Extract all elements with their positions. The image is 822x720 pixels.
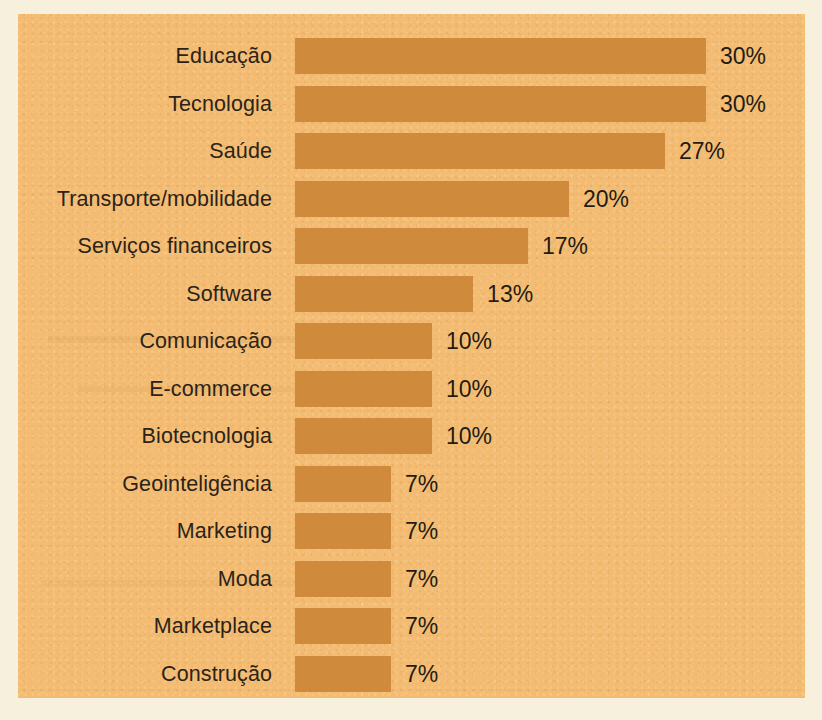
bar-category-label: Tecnologia <box>18 86 272 122</box>
bar-row: Marketing7% <box>18 513 805 549</box>
bar-container: 30% <box>295 38 766 74</box>
bar-category-label: Software <box>18 276 272 312</box>
bar-container: 20% <box>295 181 629 217</box>
bar-container: 27% <box>295 133 725 169</box>
bar-row: Geointeligência7% <box>18 466 805 502</box>
bar-value-label: 7% <box>405 466 438 502</box>
bar-category-label: Comunicação <box>18 323 272 359</box>
bar-value-label: 10% <box>446 418 492 454</box>
bar-container: 7% <box>295 513 438 549</box>
bar-row: Serviços financeiros17% <box>18 228 805 264</box>
bar-container: 10% <box>295 371 492 407</box>
bar <box>295 418 432 454</box>
chart-panel: Educação30%Tecnologia30%Saúde27%Transpor… <box>18 14 805 698</box>
bar-value-label: 10% <box>446 323 492 359</box>
bar-row: Moda7% <box>18 561 805 597</box>
bar-row: Software13% <box>18 276 805 312</box>
bar <box>295 466 391 502</box>
bar-value-label: 10% <box>446 371 492 407</box>
bar-category-label: Saúde <box>18 133 272 169</box>
bar-container: 7% <box>295 561 438 597</box>
bar-value-label: 7% <box>405 656 438 692</box>
chart-page: Educação30%Tecnologia30%Saúde27%Transpor… <box>0 0 822 720</box>
bar-row: Transporte/mobilidade20% <box>18 181 805 217</box>
bar-value-label: 30% <box>720 38 766 74</box>
bar-category-label: Geointeligência <box>18 466 272 502</box>
bar <box>295 86 706 122</box>
bar-value-label: 20% <box>583 181 629 217</box>
bar-category-label: Marketing <box>18 513 272 549</box>
bar-row: Comunicação10% <box>18 323 805 359</box>
bar-value-label: 13% <box>487 276 533 312</box>
bar <box>295 133 665 169</box>
bar-row: Tecnologia30% <box>18 86 805 122</box>
bar-row: Educação30% <box>18 38 805 74</box>
bar-value-label: 27% <box>679 133 725 169</box>
bar-container: 7% <box>295 466 438 502</box>
bar <box>295 228 528 264</box>
bar <box>295 323 432 359</box>
bar <box>295 608 391 644</box>
bar-container: 17% <box>295 228 588 264</box>
bar-row: Biotecnologia10% <box>18 418 805 454</box>
bar-container: 10% <box>295 418 492 454</box>
bar-container: 13% <box>295 276 533 312</box>
bar-category-label: Biotecnologia <box>18 418 272 454</box>
bar-category-label: Marketplace <box>18 608 272 644</box>
bar <box>295 513 391 549</box>
bar-row: Marketplace7% <box>18 608 805 644</box>
bar-row: E-commerce10% <box>18 371 805 407</box>
bar <box>295 181 569 217</box>
bar-row: Saúde27% <box>18 133 805 169</box>
bar-category-label: Educação <box>18 38 272 74</box>
bar-category-label: Serviços financeiros <box>18 228 272 264</box>
bar <box>295 371 432 407</box>
bar-value-label: 7% <box>405 561 438 597</box>
bar <box>295 276 473 312</box>
bar-container: 10% <box>295 323 492 359</box>
bar-value-label: 30% <box>720 86 766 122</box>
bar-category-label: Moda <box>18 561 272 597</box>
bar <box>295 38 706 74</box>
bar-container: 30% <box>295 86 766 122</box>
bar-container: 7% <box>295 656 438 692</box>
bar-value-label: 7% <box>405 513 438 549</box>
bar-container: 7% <box>295 608 438 644</box>
bar-row: Construção7% <box>18 656 805 692</box>
bar-category-label: E-commerce <box>18 371 272 407</box>
bar-category-label: Construção <box>18 656 272 692</box>
bar-value-label: 17% <box>542 228 588 264</box>
bar-chart-plot-area: Educação30%Tecnologia30%Saúde27%Transpor… <box>18 14 805 698</box>
bar <box>295 561 391 597</box>
bar-value-label: 7% <box>405 608 438 644</box>
bar <box>295 656 391 692</box>
bar-category-label: Transporte/mobilidade <box>18 181 272 217</box>
